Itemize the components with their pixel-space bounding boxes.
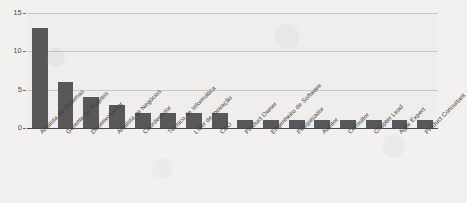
x-axis-labels: Analista de SistemasGerente de ProjetosD… <box>27 130 463 203</box>
y-axis-tick-label: 15 <box>0 8 22 17</box>
y-axis-tickmark <box>23 90 26 91</box>
y-axis-tickmark <box>23 13 26 14</box>
y-axis-tick-label: 0 <box>0 123 22 132</box>
y-axis-tick-label: 5 <box>0 85 22 94</box>
bar <box>32 28 48 128</box>
y-axis-tickmark <box>23 51 26 52</box>
y-axis-tick-label: 10 <box>0 46 22 55</box>
y-axis-tickmark <box>23 128 26 129</box>
